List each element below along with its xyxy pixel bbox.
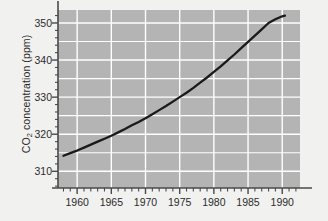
plot-area [0,0,328,221]
co2-concentration-chart: CO2 concentration (ppm) 310320330340350 … [0,0,328,221]
